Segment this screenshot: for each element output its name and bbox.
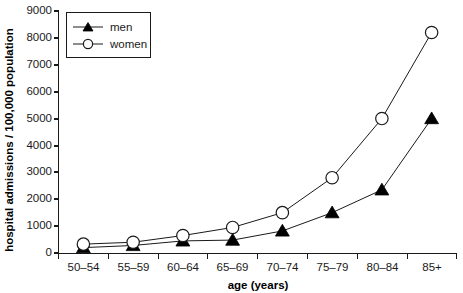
x-axis-title: age (years) [228,279,289,291]
chart-container: hospital admissions / 100,000 population… [0,0,463,293]
y-axis-title: hospital admissions / 100,000 population [3,28,15,252]
data-point-men [375,183,389,195]
y-tick-label: 4000 [26,139,52,151]
data-point-men [325,206,339,218]
y-axis-tick-labels: 0 1000 2000 3000 4000 5000 6000 7000 800… [26,4,52,258]
x-tick-label: 85+ [422,261,442,273]
x-tick-label: 50–54 [68,261,101,273]
data-point-women [77,238,89,250]
legend: men women [67,13,151,58]
y-tick-label: 7000 [26,58,52,70]
y-axis-ticks [54,11,59,253]
data-point-women [226,221,238,233]
legend-box [67,13,151,58]
line-chart: hospital admissions / 100,000 population… [0,0,463,293]
data-point-women [276,206,288,218]
data-point-women [326,172,338,184]
data-point-men [425,112,439,124]
y-tick-label: 0 [46,246,52,258]
x-tick-label: 60–64 [167,261,200,273]
x-tick-label: 75–79 [317,261,349,273]
x-axis-tick-labels: 50–54 55–59 60–64 65–69 70–74 75–79 80–8… [68,261,443,273]
y-tick-label: 9000 [26,4,52,16]
y-tick-label: 2000 [26,192,52,204]
y-tick-label: 6000 [26,85,52,97]
x-tick-label: 55–59 [118,261,150,273]
series-line-men [83,119,431,248]
women-marker-icon [83,39,92,48]
y-tick-label: 3000 [26,165,52,177]
series-line-women [83,33,431,245]
data-point-men [275,224,289,236]
data-point-women [177,229,189,241]
y-tick-label: 8000 [26,31,52,43]
data-point-women [376,112,388,124]
data-point-women [127,236,139,248]
x-tick-label: 80–84 [367,261,400,273]
legend-label-women: women [109,38,147,50]
legend-label-men: men [110,21,132,33]
y-tick-label: 1000 [26,219,52,231]
data-series-layer [76,26,438,252]
y-tick-label: 5000 [26,112,52,124]
x-axis-ticks [59,254,457,260]
x-tick-label: 70–74 [267,261,300,273]
data-point-women [425,26,437,38]
x-tick-label: 65–69 [217,261,249,273]
